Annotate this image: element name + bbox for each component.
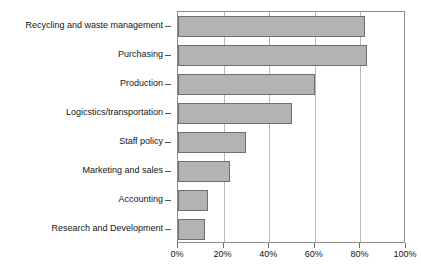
bar	[178, 45, 367, 66]
category-tick	[165, 26, 171, 27]
category-tick	[165, 113, 171, 114]
bar	[178, 74, 315, 95]
category-label: Purchasing	[118, 44, 163, 65]
x-tick	[314, 243, 315, 248]
bar	[178, 219, 205, 240]
category-tick	[165, 55, 171, 56]
category-label: Production	[120, 73, 163, 94]
bar	[178, 190, 208, 211]
x-tick	[359, 243, 360, 248]
bar	[178, 132, 246, 153]
x-tick	[177, 243, 178, 248]
x-axis-ticks	[177, 243, 405, 248]
bar	[178, 103, 292, 124]
category-label: Staff policy	[119, 131, 163, 152]
category-tick	[165, 84, 171, 85]
bar-chart: Recycling and waste managementPurchasing…	[0, 0, 421, 272]
x-tick-label: 80%	[350, 249, 368, 259]
x-tick	[268, 243, 269, 248]
x-tick	[223, 243, 224, 248]
category-label: Accounting	[118, 189, 163, 210]
category-tick	[165, 200, 171, 201]
x-tick-label: 60%	[305, 249, 323, 259]
category-tick	[165, 229, 171, 230]
x-tick-label: 100%	[393, 249, 416, 259]
category-label: Logicstics/transportation	[66, 102, 163, 123]
category-label: Research and Development	[51, 218, 163, 239]
x-tick	[405, 243, 406, 248]
plot-area	[177, 11, 405, 243]
category-axis: Recycling and waste managementPurchasing…	[0, 11, 171, 243]
bar	[178, 161, 230, 182]
x-axis-labels: 0%20%40%60%80%100%	[177, 249, 405, 263]
x-tick-label: 0%	[170, 249, 183, 259]
bar	[178, 16, 365, 37]
category-label: Marketing and sales	[82, 160, 163, 181]
category-label: Recycling and waste management	[25, 15, 163, 36]
x-tick-label: 20%	[214, 249, 232, 259]
x-tick-label: 40%	[259, 249, 277, 259]
category-tick	[165, 142, 171, 143]
category-tick	[165, 171, 171, 172]
